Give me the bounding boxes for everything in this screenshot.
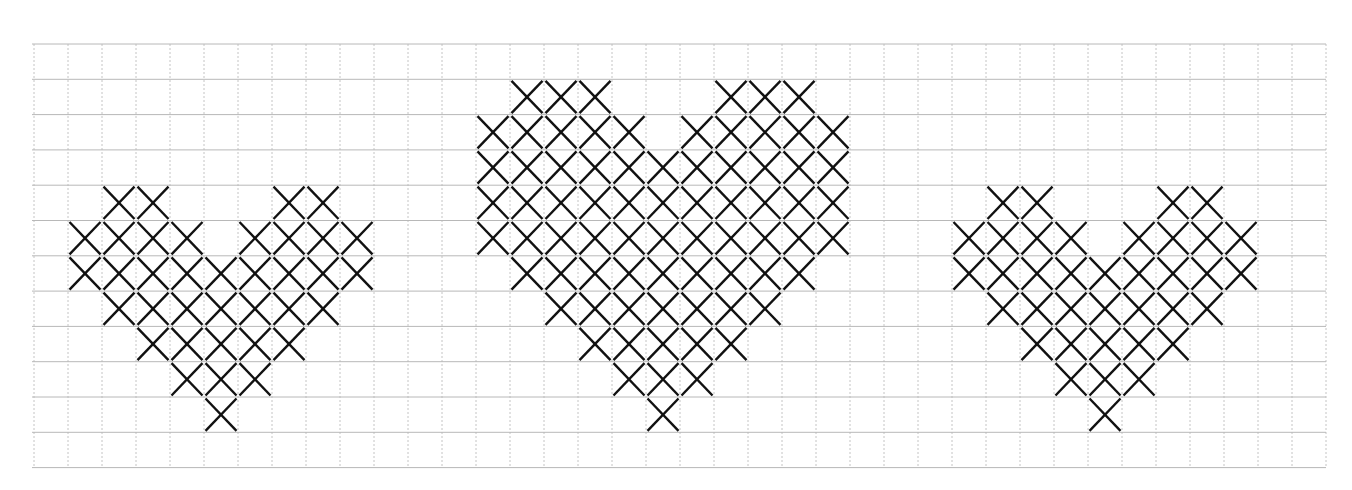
cross-stitch-icon bbox=[274, 328, 305, 360]
cross-stitch-icon bbox=[750, 81, 781, 113]
cross-stitch-icon bbox=[512, 257, 543, 289]
cross-stitch-icon bbox=[1090, 293, 1121, 325]
cross-stitch-icon bbox=[1056, 328, 1087, 360]
cross-stitch-chart bbox=[0, 0, 1352, 490]
cross-stitch-icon bbox=[614, 293, 645, 325]
cross-stitch-icon bbox=[512, 222, 543, 254]
cross-stitch-icon bbox=[1192, 222, 1223, 254]
cross-stitch-icon bbox=[784, 187, 815, 219]
cross-stitch-icon bbox=[818, 187, 849, 219]
cross-stitch-icon bbox=[682, 293, 713, 325]
cross-stitch-icon bbox=[308, 293, 339, 325]
cross-stitch-icon bbox=[614, 257, 645, 289]
cross-stitch-icon bbox=[546, 151, 577, 183]
cross-stitch-icon bbox=[1158, 257, 1189, 289]
cross-stitch-icon bbox=[240, 328, 271, 360]
cross-stitch-icon bbox=[750, 187, 781, 219]
cross-stitch-icon bbox=[682, 328, 713, 360]
cross-stitch-icon bbox=[1056, 257, 1087, 289]
cross-stitch-icon bbox=[308, 222, 339, 254]
cross-stitch-icon bbox=[954, 222, 985, 254]
cross-stitch-icon bbox=[1158, 328, 1189, 360]
cross-stitch-icon bbox=[716, 151, 747, 183]
cross-stitch-icon bbox=[648, 222, 679, 254]
cross-stitch-icon bbox=[580, 257, 611, 289]
cross-stitch-icon bbox=[1158, 222, 1189, 254]
cross-stitch-icon bbox=[172, 293, 203, 325]
cross-stitch-icon bbox=[682, 257, 713, 289]
cross-stitch-icon bbox=[818, 116, 849, 148]
cross-stitch-icon bbox=[716, 116, 747, 148]
cross-stitch-icon bbox=[1090, 328, 1121, 360]
cross-stitch-icon bbox=[546, 257, 577, 289]
cross-stitch-icon bbox=[240, 293, 271, 325]
cross-stitch-icon bbox=[478, 116, 509, 148]
cross-stitch-icon bbox=[546, 116, 577, 148]
cross-stitch-icon bbox=[682, 363, 713, 395]
cross-stitch-icon bbox=[512, 187, 543, 219]
cross-stitch-icon bbox=[1022, 222, 1053, 254]
cross-stitch-icon bbox=[682, 222, 713, 254]
cross-stitch-icon bbox=[1192, 187, 1223, 219]
grid-lines bbox=[32, 44, 1326, 468]
cross-stitch-icon bbox=[138, 187, 169, 219]
cross-stitch-icon bbox=[206, 257, 237, 289]
cross-stitch-icon bbox=[648, 399, 679, 431]
cross-stitch-icon bbox=[716, 81, 747, 113]
cross-stitch-icon bbox=[988, 187, 1019, 219]
cross-stitch-icon bbox=[308, 187, 339, 219]
cross-stitch-icon bbox=[1124, 328, 1155, 360]
cross-stitch-icon bbox=[104, 293, 135, 325]
cross-stitch-icon bbox=[1090, 363, 1121, 395]
cross-stitch-icon bbox=[716, 257, 747, 289]
cross-stitch-icon bbox=[70, 257, 101, 289]
cross-stitch-icon bbox=[988, 293, 1019, 325]
cross-stitch-icon bbox=[546, 187, 577, 219]
cross-stitch-icon bbox=[648, 187, 679, 219]
cross-stitch-icon bbox=[172, 257, 203, 289]
cross-stitch-icon bbox=[580, 222, 611, 254]
cross-stitch-icon bbox=[1090, 257, 1121, 289]
cross-stitch-icon bbox=[580, 187, 611, 219]
cross-stitch-icon bbox=[104, 257, 135, 289]
cross-stitch-icon bbox=[546, 81, 577, 113]
cross-stitch-icon bbox=[1056, 293, 1087, 325]
cross-stitch-icon bbox=[614, 328, 645, 360]
cross-stitch-icon bbox=[342, 222, 373, 254]
cross-stitch-icon bbox=[1226, 257, 1257, 289]
cross-stitch-icon bbox=[954, 257, 985, 289]
cross-stitch-icon bbox=[70, 222, 101, 254]
cross-stitch-icon bbox=[750, 116, 781, 148]
cross-stitch-icon bbox=[240, 257, 271, 289]
cross-stitch-icon bbox=[1022, 293, 1053, 325]
cross-stitch-icon bbox=[648, 151, 679, 183]
cross-stitch-icon bbox=[682, 151, 713, 183]
cross-stitch-icon bbox=[342, 257, 373, 289]
cross-stitch-icon bbox=[172, 222, 203, 254]
cross-stitch-icon bbox=[580, 328, 611, 360]
cross-stitch-icon bbox=[1124, 293, 1155, 325]
cross-stitch-icon bbox=[784, 257, 815, 289]
cross-stitch-icon bbox=[138, 328, 169, 360]
cross-stitch-icon bbox=[614, 151, 645, 183]
cross-stitch-icon bbox=[648, 363, 679, 395]
cross-stitch-icon bbox=[1158, 293, 1189, 325]
cross-stitch-icon bbox=[1124, 222, 1155, 254]
cross-stitch-icon bbox=[580, 151, 611, 183]
cross-stitch-icon bbox=[104, 222, 135, 254]
cross-stitch-icon bbox=[648, 293, 679, 325]
cross-stitch-icon bbox=[750, 151, 781, 183]
cross-stitch-icon bbox=[274, 257, 305, 289]
cross-stitch-icon bbox=[716, 328, 747, 360]
cross-stitch-icon bbox=[682, 187, 713, 219]
cross-stitch-icon bbox=[750, 222, 781, 254]
cross-stitch-icon bbox=[614, 187, 645, 219]
cross-stitch-icon bbox=[1056, 363, 1087, 395]
cross-stitch-icon bbox=[138, 257, 169, 289]
cross-stitch-icon bbox=[104, 187, 135, 219]
cross-stitch-icon bbox=[274, 187, 305, 219]
cross-stitch-icon bbox=[1022, 187, 1053, 219]
cross-stitch-icon bbox=[478, 187, 509, 219]
cross-stitch-icon bbox=[478, 222, 509, 254]
cross-stitch-icon bbox=[682, 116, 713, 148]
